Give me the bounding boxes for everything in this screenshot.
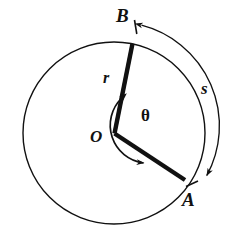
label-point-a: A xyxy=(182,190,195,209)
arc-s-path xyxy=(142,25,220,175)
label-origin-o: O xyxy=(90,128,102,145)
label-angle-theta: θ xyxy=(141,107,150,124)
arc-end-tick xyxy=(186,181,198,187)
label-point-b: B xyxy=(116,6,129,25)
circle-arc-figure: B r s θ O A xyxy=(0,0,234,244)
figure-canvas xyxy=(0,0,234,244)
radius-oa-segment xyxy=(115,134,186,181)
radius-ob-segment xyxy=(115,44,133,134)
label-arc-s: s xyxy=(201,80,208,97)
arc-start-tick xyxy=(135,20,137,34)
label-radius-r: r xyxy=(103,70,109,86)
